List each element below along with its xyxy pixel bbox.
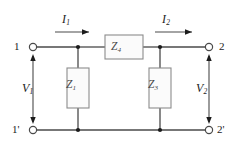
voltage-arrow-v2-head-up <box>206 54 211 61</box>
junction-dot-top-left <box>76 45 80 49</box>
junction-dot-top-right <box>158 45 162 49</box>
terminal-node-2-prime <box>205 126 212 133</box>
voltage-label-v2: V2 <box>196 82 207 94</box>
voltage-label-v2-subscript: 2 <box>203 87 207 96</box>
voltage-arrow-v1-head-up <box>30 54 35 61</box>
impedance-label-shunt-left-subscript: 1 <box>72 84 76 92</box>
terminal-label-2-prime: 2' <box>217 124 224 135</box>
impedance-label-shunt-left: Z1 <box>66 79 76 91</box>
terminal-node-1-prime <box>29 126 36 133</box>
impedance-label-series: Z4 <box>111 41 121 53</box>
terminal-node-2 <box>205 43 212 50</box>
current-arrow-i1-head <box>82 29 89 35</box>
impedance-label-shunt-right-subscript: 3 <box>154 84 158 92</box>
voltage-label-v1-subscript: 1 <box>29 87 33 96</box>
current-label-i1-subscript: 1 <box>66 18 70 27</box>
current-arrow-i2-head <box>185 29 192 35</box>
impedance-label-shunt-right: Z3 <box>148 79 158 91</box>
terminal-label-2: 2 <box>219 41 225 52</box>
voltage-label-v1: V1 <box>22 82 33 94</box>
terminal-label-1-prime: 1' <box>12 124 19 135</box>
junction-dot-bottom-left <box>76 128 80 132</box>
terminal-node-1 <box>29 43 36 50</box>
circuit-diagram-figure: I1 I2 V1 V2 1 1' 2 2' Z4 Z1 Z3 <box>0 0 238 148</box>
current-label-i2: I2 <box>162 13 170 25</box>
current-label-i1: I1 <box>62 13 70 25</box>
terminal-label-1: 1 <box>14 41 20 52</box>
voltage-arrow-v1-head-down <box>30 117 35 124</box>
junction-dot-bottom-right <box>158 128 162 132</box>
current-label-i2-subscript: 2 <box>166 18 170 27</box>
schematic-canvas <box>0 0 238 148</box>
impedance-label-series-subscript: 4 <box>117 46 121 54</box>
voltage-arrow-v2-head-down <box>206 117 211 124</box>
